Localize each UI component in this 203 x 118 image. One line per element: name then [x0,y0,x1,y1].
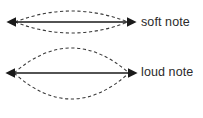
string-vibration-diagram: soft note loud note [0,0,203,118]
loud-note-figure [14,48,129,99]
loud-note-envelope-upper-arc [14,48,129,73]
loud-note-envelope-lower-arc [14,73,129,99]
loud-note-label: loud note [141,66,193,79]
soft-note-figure [15,11,128,33]
soft-note-envelope-lower-arc [15,22,128,33]
soft-note-label: soft note [141,16,190,29]
soft-note-envelope-upper-arc [15,11,128,22]
